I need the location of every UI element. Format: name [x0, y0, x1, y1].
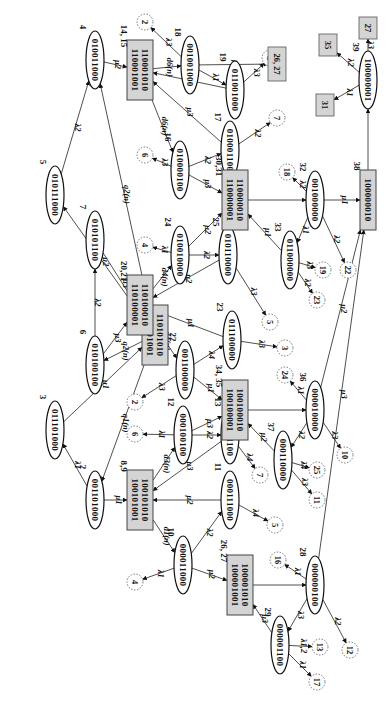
reference-node-7: 7: [252, 467, 268, 483]
state-id-label: 8,9: [119, 460, 129, 472]
reference-label: 5: [270, 523, 280, 527]
state-bits: 010010000: [175, 233, 185, 276]
transition-s33-s3031: μ1: [248, 214, 281, 251]
reference-label: 25: [312, 466, 322, 475]
transition-label: μ3: [203, 178, 213, 189]
state-id-label: 10: [166, 528, 176, 538]
transition-s11-r5b: λ4: [239, 505, 268, 521]
transition-label: λ4: [251, 508, 261, 517]
transition-label: λ1: [298, 660, 308, 669]
reference-label: 16: [273, 556, 283, 565]
transition-s33-r23: λ2: [298, 272, 313, 293]
transition-s36-r24: λ1: [290, 381, 306, 400]
transition-s32-r18: λ2: [293, 178, 308, 192]
state-bits: 000011000: [178, 544, 188, 587]
transition-s01-s6: q2(n): [104, 342, 142, 361]
reference-label: 27: [363, 24, 373, 33]
reference-node-3: 3: [277, 340, 293, 356]
state-bits: 100001010: [240, 563, 250, 606]
state-node-26-27: 10000101010000100126, 27: [219, 540, 253, 615]
state-bits: 110000001: [225, 179, 235, 222]
transition-s37-r25: λ4: [292, 460, 309, 469]
state-bits: 000010000: [310, 388, 320, 431]
state-bits: 000110000: [278, 439, 288, 482]
transition-s10-s2627: μ2: [192, 568, 227, 580]
reference-node-6: 6: [127, 426, 143, 442]
state-node-32: 00100000032: [298, 163, 324, 230]
transition-label: λ1: [293, 567, 303, 576]
state-bits: 100101010: [140, 478, 150, 521]
transition-label: μ1: [340, 195, 350, 205]
transition-label: λ1,2: [299, 638, 309, 654]
state-bits: 110000010: [235, 179, 245, 222]
transition-s6-s7: λ2: [93, 269, 103, 336]
state-bits: 000100100: [178, 413, 188, 456]
state-id-label: 18: [173, 28, 183, 38]
state-bits: 011100000: [227, 319, 237, 361]
state-id-label: 38: [352, 162, 362, 172]
reference-label: 35: [323, 41, 333, 50]
reference-label: 6: [130, 432, 140, 436]
reference-node-17: 17: [309, 674, 325, 690]
transition-label: λ3: [366, 40, 376, 50]
state-bits: 011000000: [285, 239, 295, 282]
transition-label: λ2: [205, 527, 215, 537]
transition-label: μ3: [339, 389, 349, 400]
transition-label: λ2: [333, 616, 343, 626]
state-bits: 000000100: [310, 563, 320, 606]
reference-label: 22: [343, 266, 353, 275]
transition-s29-r17: λ1: [289, 654, 312, 677]
state-id-label: 23: [215, 303, 225, 313]
transition-label: λ3: [252, 68, 262, 78]
reference-node-6: 6: [137, 147, 153, 163]
state-id-label: 37: [266, 423, 276, 433]
reference-node-18: 18: [279, 164, 295, 180]
reference-label: 13: [315, 643, 325, 652]
reference-node-12: 12: [342, 642, 358, 658]
transition-label: λ2: [93, 297, 103, 307]
state-bits: 100101001: [130, 478, 140, 521]
transition-label: λ3: [157, 382, 167, 392]
transition-s10-s11: λ2: [191, 511, 221, 553]
transition-label: λ3: [305, 260, 315, 270]
state-bits: 010001100: [225, 129, 235, 172]
transition-s28-s29: λ3: [288, 599, 307, 632]
state-id-label: 19: [218, 53, 228, 63]
transition-label: μ2: [207, 569, 217, 580]
transition-label: λ2: [202, 250, 212, 260]
transition-label: λ3: [296, 610, 306, 620]
transition-s39-r35: λ2: [337, 53, 359, 73]
reference-node-2: 2: [127, 394, 143, 410]
transition-label: λ1: [301, 225, 311, 234]
transition-label: λ2: [253, 128, 263, 138]
state-bits: 110100001: [130, 284, 140, 327]
reference-node-4: 4: [137, 237, 153, 253]
transition-label: q2(n): [122, 185, 132, 204]
state-bits: 010100100: [90, 343, 100, 386]
reference-node-27: 27: [359, 17, 377, 39]
reference-node-26-27: 26, 27: [268, 47, 286, 81]
reference-label: 17: [312, 678, 322, 687]
state-bits: 001001000: [185, 43, 195, 86]
transition-label: λ2: [297, 430, 307, 440]
reference-node-5: 5: [267, 517, 283, 533]
reference-label: 18: [282, 168, 292, 177]
reference-label: 5: [265, 320, 275, 324]
state-node-23: 01110000023: [215, 303, 241, 370]
state-bits: 100000001: [363, 58, 373, 101]
transition-s24-s25: λ2: [189, 250, 219, 260]
reference-node-4: 4: [127, 574, 143, 590]
transition-s16-r6a: λ3: [152, 157, 171, 167]
state-bits: 000111000: [225, 479, 235, 521]
state-bits: 110101010: [155, 314, 165, 357]
transition-s36-s37: λ2: [291, 423, 307, 448]
state-id-label: 7: [78, 205, 88, 210]
transition-label: q2(n): [121, 342, 131, 361]
transition-s5-s4: λ2: [61, 81, 89, 174]
transition-label: μ2: [259, 432, 269, 443]
state-node-18: 00100100018: [173, 28, 199, 95]
transition-s12-s13: λ2: [192, 430, 221, 440]
transitions-layer: μ2λ2q2(n)μ2λ2μ3q2(n)μ3μ1q1(n)λ1μ1d6(n)d6…: [61, 28, 376, 677]
transition-label: λ3: [160, 157, 170, 167]
transition-s2-s89: μ1: [104, 495, 127, 505]
